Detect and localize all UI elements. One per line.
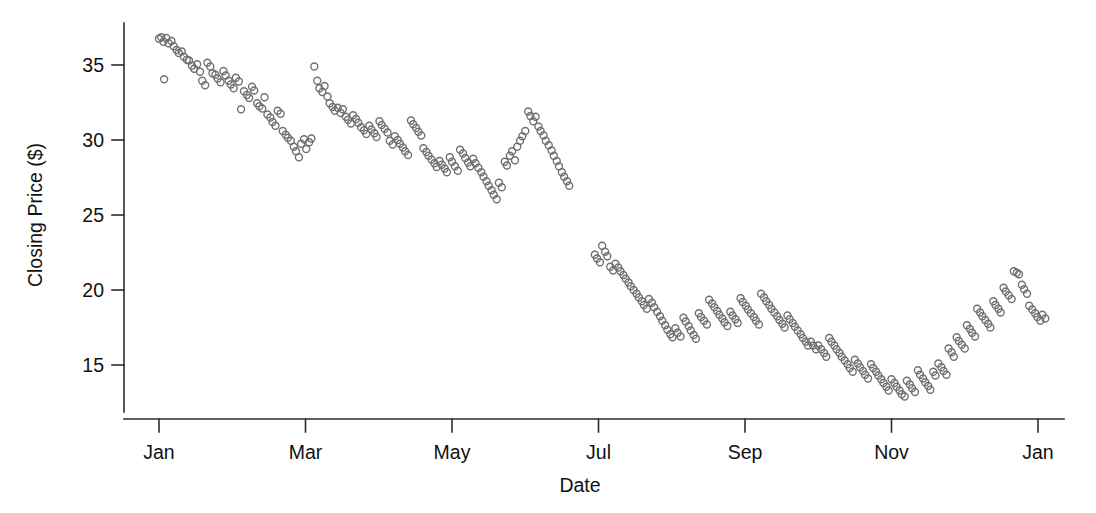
y-axis-title: Closing Price ($) xyxy=(24,143,46,287)
data-point xyxy=(161,76,168,83)
x-tick-label: Jan xyxy=(143,441,174,463)
x-tick-label: Mar xyxy=(289,441,323,463)
plot-canvas: 3530252015 JanMarMayJulSepNovJan Closing… xyxy=(0,0,1096,513)
data-point xyxy=(303,146,310,153)
x-tick-label: May xyxy=(434,441,471,463)
x-tick-label: Nov xyxy=(874,441,909,463)
y-tick-label: 30 xyxy=(82,129,104,151)
y-tick-label: 35 xyxy=(82,54,104,76)
y-tick-group: 3530252015 xyxy=(82,54,124,376)
x-axis-group: JanMarMayJulSepNovJan xyxy=(124,419,1064,463)
x-tick-group: JanMarMayJulSepNovJan xyxy=(143,419,1053,463)
y-tick-label: 20 xyxy=(82,279,104,301)
scatter-chart-figure: 3530252015 JanMarMayJulSepNovJan Closing… xyxy=(0,0,1096,513)
data-point xyxy=(197,68,204,75)
data-point xyxy=(512,157,519,164)
y-tick-label: 15 xyxy=(82,354,104,376)
x-tick-label: Jan xyxy=(1022,441,1053,463)
data-point xyxy=(311,63,318,70)
data-point-group xyxy=(156,34,1049,400)
y-axis-group: 3530252015 xyxy=(82,23,124,412)
data-point xyxy=(261,94,268,101)
data-point xyxy=(314,77,321,84)
x-tick-label: Sep xyxy=(728,441,763,463)
data-point xyxy=(295,154,302,161)
data-point xyxy=(324,93,331,100)
x-tick-label: Jul xyxy=(586,441,611,463)
y-tick-label: 25 xyxy=(82,204,104,226)
x-axis-title: Date xyxy=(559,474,600,496)
data-point xyxy=(238,106,245,113)
